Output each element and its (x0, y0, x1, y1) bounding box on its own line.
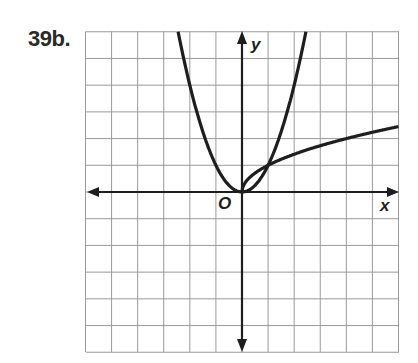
y-axis-up-arrow-icon (237, 31, 247, 44)
x-axis-left-arrow-icon (87, 187, 99, 197)
y-axis-down-arrow-icon (237, 339, 247, 352)
y-axis-label: y (250, 35, 262, 54)
coordinate-graph: y x O (0, 0, 418, 363)
x-axis-label: x (379, 196, 391, 215)
origin-label: O (218, 194, 231, 213)
